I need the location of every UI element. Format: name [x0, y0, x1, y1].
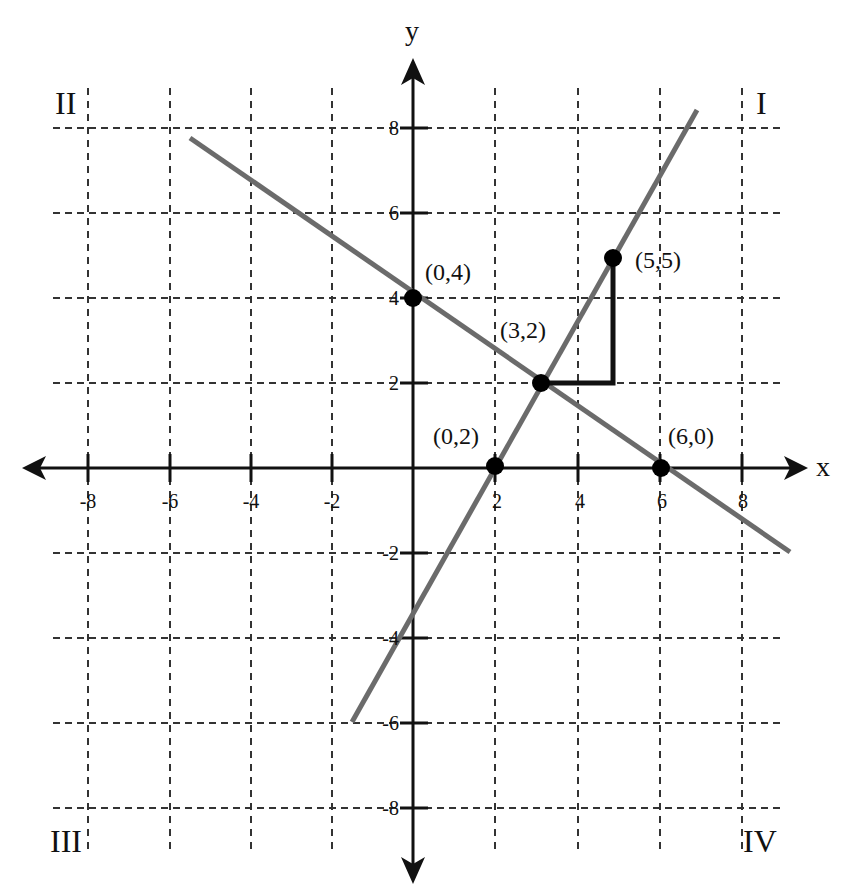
y-tick-label: 2	[389, 372, 399, 394]
x-axis	[22, 456, 808, 480]
x-tick-label: -8	[80, 490, 97, 512]
y-axis	[401, 58, 425, 884]
quadrant-label-ii: II	[55, 85, 76, 121]
x-tick-label: -2	[324, 490, 341, 512]
y-tick-label: 4	[389, 287, 399, 309]
point-label-3-2: (3,2)	[500, 317, 546, 343]
y-tick-label: 6	[389, 202, 399, 224]
x-tick-label: -6	[162, 490, 179, 512]
x-tick-label: 6	[657, 490, 667, 512]
y-tick-label: -4	[382, 627, 399, 649]
point-label-5-5: (5,5)	[635, 247, 681, 273]
x-tick-label: 2	[492, 490, 502, 512]
point-6-0	[652, 459, 670, 477]
x-tick-label: 8	[738, 490, 748, 512]
quadrant-label-i: I	[756, 85, 767, 121]
point-label-6-0: (6,0)	[668, 423, 714, 449]
quadrant-label-iv: IV	[743, 823, 777, 859]
y-tick-label: -6	[382, 712, 399, 734]
point-label-0-4: (0,4)	[425, 259, 471, 285]
x-axis-label: x	[816, 451, 830, 482]
x-tick-label: -4	[243, 490, 260, 512]
line-steep	[352, 110, 697, 722]
line-shallow	[190, 138, 790, 552]
quadrant-label-iii: III	[50, 823, 82, 859]
y-axis-label: y	[405, 15, 419, 46]
coordinate-plane: -8 -6 -4 -2 2 4 6 8 8 6 4 2 -2 -4 -6 -8 …	[0, 0, 854, 892]
y-tick-label: 8	[389, 117, 399, 139]
point-label-0-2: (0,2)	[433, 423, 479, 449]
y-tick-label: -2	[382, 542, 399, 564]
y-tick-label: -8	[382, 797, 399, 819]
point-2-0	[486, 457, 504, 475]
x-tick-label: 4	[575, 490, 585, 512]
point-0-4	[404, 289, 422, 307]
point-5-5	[604, 249, 622, 267]
point-3-2	[532, 374, 550, 392]
